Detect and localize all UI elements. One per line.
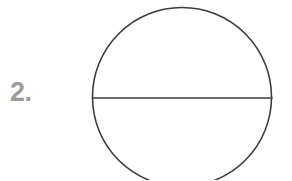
circle-outline: [93, 8, 272, 181]
figure-canvas: 2.: [0, 0, 292, 180]
circle-diagram: [0, 0, 292, 180]
